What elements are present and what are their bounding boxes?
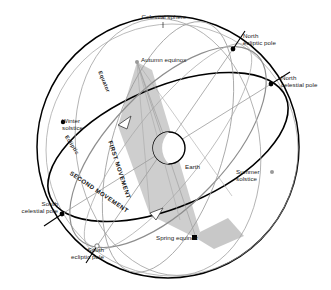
summer-solstice-label: Summer solstice — [236, 168, 280, 182]
earth-body — [153, 132, 185, 164]
south-celestial-pole-label: South celestial pole — [2, 200, 58, 214]
south-ecliptic-pole-label: South ecliptic pole — [48, 246, 104, 260]
earth-label: Earth — [185, 163, 215, 170]
celestial-sphere-label: Celestial sphere — [120, 13, 208, 20]
north-ecliptic-pole-label: North ecliptic pole — [243, 32, 303, 46]
north-celestial-pole-label: North celestial pole — [281, 74, 331, 88]
autumn-equinox-label: Autumn equinox — [141, 56, 221, 63]
spring-equinox-label: Spring equinox — [140, 234, 198, 241]
celestial-sphere-diagram: Celestial sphere North ecliptic pole Nor… — [0, 0, 331, 290]
winter-solstice-label: Winter solstice — [62, 117, 102, 131]
